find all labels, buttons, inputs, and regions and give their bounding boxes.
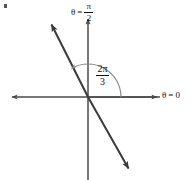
angle-denominator: 3 <box>99 76 106 87</box>
vertical-axis-fraction: π 2 <box>84 2 93 23</box>
theta-line-lower-ray <box>88 97 129 169</box>
angle-fraction: 2π 3 <box>96 64 109 87</box>
vertical-axis-numerator: π <box>86 2 93 12</box>
vertical-axis-equals: = <box>77 8 82 17</box>
horizontal-axis-label: θ = 0 <box>162 91 180 100</box>
theta-line-upper-ray <box>52 25 89 98</box>
vertical-axis-label: θ = π 2 <box>71 2 93 23</box>
horizontal-axis-equals: = <box>168 91 173 100</box>
angle-measure-label: 2π 3 <box>96 64 109 87</box>
polar-angle-figure: θ = π 2 θ = 0 2π 3 <box>0 0 190 180</box>
horizontal-axis-theta-symbol: θ <box>162 91 166 100</box>
vertical-axis-theta-symbol: θ <box>71 8 75 17</box>
angle-numerator: 2π <box>96 64 108 75</box>
vertical-axis-denominator: 2 <box>86 13 93 23</box>
horizontal-axis-value: 0 <box>175 91 180 100</box>
